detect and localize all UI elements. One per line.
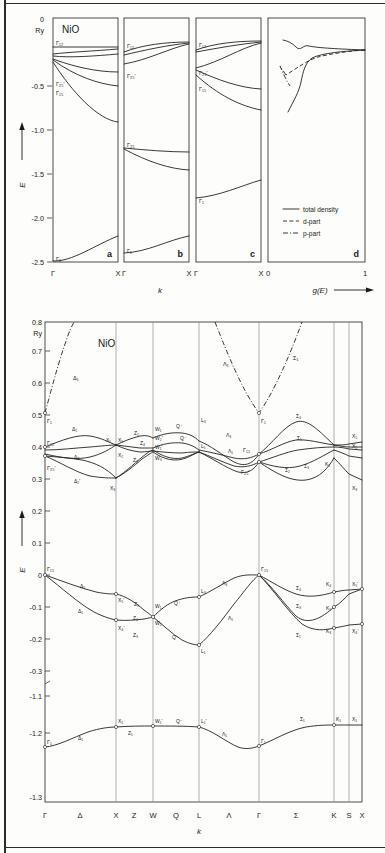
sym-label: W₁ <box>155 426 162 432</box>
sym-label: X₄' <box>118 625 124 631</box>
kpath-label: Γ <box>257 811 261 820</box>
sym-label: Γ₁₂ <box>243 447 250 453</box>
sym-label: Σ₄ <box>296 413 301 419</box>
sym-label: Z₁ <box>128 730 133 736</box>
panel-tag-c: c <box>250 249 255 259</box>
sym-label: Λ₃ <box>226 432 231 438</box>
bottom-title: NiO <box>98 338 115 349</box>
sym-label: Γ₁ <box>261 738 266 744</box>
sym-label: X₅ <box>352 433 357 439</box>
sym-label: Γ₂₅' <box>47 465 56 471</box>
ytick-label: 0 <box>40 15 44 24</box>
ytick-label: -1.2 <box>30 729 42 738</box>
kpath-label: S <box>346 811 351 820</box>
sym-label: K₃ <box>326 628 331 634</box>
sym-label: Γ₁ <box>261 418 266 424</box>
energy-unit-label: Ry <box>35 26 44 35</box>
panel-d-dos: d total density d-part p-part 0 <box>266 18 367 278</box>
sym-label: Γ₂₅ <box>127 142 135 148</box>
sym-label: L₁ <box>201 648 206 654</box>
k-axis-label: k <box>158 286 163 295</box>
sym-label: L₃ <box>201 417 206 423</box>
sym-label: Q⁺ <box>176 423 183 429</box>
sym-label: Γ₁ <box>47 418 52 424</box>
dos-curves <box>280 40 365 112</box>
panel-tag-d: d <box>354 249 360 259</box>
sym-label: L₁' <box>201 718 206 724</box>
xtick-label: 1 <box>363 269 367 278</box>
legend-label: d-part <box>303 218 320 226</box>
energy-axis-label: E <box>18 567 27 573</box>
ytick-label: -1.0 <box>32 126 44 135</box>
xtick-label: Γ <box>51 269 55 278</box>
sym-label: Γ₁₅ <box>47 566 54 572</box>
sym-label: Γ₁₂ <box>127 43 134 49</box>
ytick-label: -1.3 <box>30 793 42 802</box>
sym-label: W₁' <box>155 444 162 450</box>
sym-label: Γ₁₅ <box>56 90 63 96</box>
sym-label: Λ₁ <box>222 731 227 737</box>
sym-label: Q⁻ <box>176 718 183 724</box>
energy-axis-arrow: E <box>18 122 27 188</box>
sym-label: Z₃ <box>133 457 138 463</box>
sym-label: Λ₁ <box>223 361 229 367</box>
panel-a-bands <box>53 47 118 261</box>
dos-legend: total density d-part p-part <box>283 206 339 238</box>
sym-label: W₂ <box>155 620 162 626</box>
kpath-label: X <box>359 811 364 820</box>
kpath-label: Σ <box>294 811 299 820</box>
top-title: NiO <box>62 24 79 35</box>
sym-label: Γ₁₅ <box>261 566 268 572</box>
sym-label: K₁ <box>336 716 341 722</box>
sym-label: Σ₂ <box>285 467 290 473</box>
sym-label: X₅' <box>352 581 358 587</box>
sym-label: W₁' <box>155 718 162 724</box>
high-symmetry-lines <box>116 322 349 802</box>
kpath-label: Q <box>173 811 179 820</box>
ytick-label: -0.5 <box>32 82 44 91</box>
sym-label: K₁ <box>326 605 331 611</box>
sym-label: Σ₄ <box>296 585 301 591</box>
xtick-label: Γ <box>194 269 198 278</box>
kpath-label: Γ <box>43 811 47 820</box>
panel-a: a NiO Γ₁₂ Γ₂₅' Γ₁₅ Γ₁ Γ X <box>51 18 121 278</box>
ytick-label: 0 <box>38 571 42 580</box>
sym-label: Δ₁ <box>78 735 83 741</box>
sym-label: Γ₁₂ <box>47 440 54 446</box>
sym-label: Λ₃ <box>222 580 227 586</box>
kpath-label: K <box>331 811 336 820</box>
figure-page: 0 Ry -0.5 -1.0 -1.5 -2.0 -2.5 E <box>0 0 385 853</box>
ytick-label: 0.8 <box>32 318 42 327</box>
sym-label: Λ₁ <box>228 615 233 621</box>
sym-label: X₃ <box>110 485 115 491</box>
sym-label: L₁ <box>201 443 206 449</box>
kpath-label: Λ <box>226 811 232 820</box>
ytick-label: 0.6 <box>32 379 42 388</box>
sym-label: X₂ <box>118 452 123 458</box>
kpath-axis: Γ Δ X Z W Q L Λ Γ Σ K S X k <box>43 811 365 836</box>
sym-label: X₄' <box>352 628 358 634</box>
sym-label: Σ₁ <box>293 355 298 361</box>
sym-label: X₁ <box>118 718 123 724</box>
sym-label: X₁ <box>106 437 111 443</box>
sym-label: Δ₅ <box>80 583 85 589</box>
s-band-group: Γ₁ Δ₁ X₁ Z₁ W₁' Q⁻ L₁' Λ₁ Γ₁ Σ₁ K₁ X₁ <box>43 716 362 749</box>
ytick-label: -2.0 <box>32 214 44 223</box>
panel-tag-b: b <box>178 249 184 259</box>
xtick-label: X <box>115 269 120 278</box>
sym-label: Γ₂₅' <box>56 81 65 87</box>
ytick-label: -1.1 <box>30 692 42 701</box>
kpath-label: X <box>113 811 118 820</box>
sym-label: Q⁻ <box>180 435 187 441</box>
xtick-label: X <box>186 269 191 278</box>
dos-axis-label-group: g(E) <box>312 286 374 295</box>
ytick-label: 0.1 <box>32 539 42 548</box>
ytick-label: 0.3 <box>32 475 42 484</box>
sym-label: Γ₁₅ <box>199 86 206 92</box>
sym-label: Δ₂' <box>74 478 80 484</box>
sym-label: X₁ <box>352 716 357 722</box>
bottom-figure: 0.8 Ry 0.7 0.6 0.5 0.4 0.3 0.2 0.1 0 -0.… <box>0 300 385 853</box>
sym-label: Σ₁ <box>297 435 302 441</box>
sym-label: Δ₂ <box>74 454 79 460</box>
top-figure: 0 Ry -0.5 -1.0 -1.5 -2.0 -2.5 E <box>0 0 385 300</box>
